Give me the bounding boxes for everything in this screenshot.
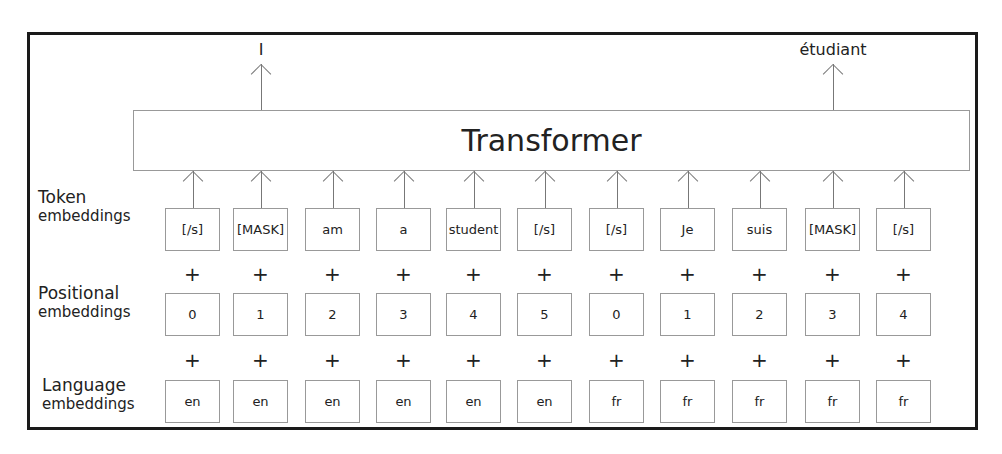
plus-operator: + [607,264,627,284]
language-box: fr [732,380,787,423]
transformer-block: Transformer [133,110,970,171]
plus-operator: + [535,350,555,370]
positional-box: 3 [376,293,431,336]
token-box: [/s] [589,208,644,251]
positional-box-value: 3 [828,307,836,322]
output-arrow [261,64,262,110]
positional-box: 3 [805,293,860,336]
input-arrow [474,171,475,208]
transformer-label: Transformer [461,123,641,158]
plus-operator: + [750,264,770,284]
token-box-value: [MASK] [237,222,284,237]
language-box: en [233,380,288,423]
plus-operator: + [678,264,698,284]
language-box-value: en [184,394,200,409]
input-arrow [688,171,689,208]
positional-box-value: 1 [256,307,264,322]
language-box-value: fr [828,394,838,409]
language-box: en [446,380,501,423]
language-box: en [376,380,431,423]
plus-operator: + [607,350,627,370]
language-box: fr [660,380,715,423]
input-arrow [404,171,405,208]
token-box-value: a [400,222,408,237]
input-arrow [261,171,262,208]
token-box: Je [660,208,715,251]
token-box: [/s] [165,208,220,251]
input-arrow [760,171,761,208]
language-box: en [165,380,220,423]
input-arrow [545,171,546,208]
language-box-value: fr [755,394,765,409]
plus-operator: + [535,264,555,284]
plus-operator: + [823,264,843,284]
plus-operator: + [183,350,203,370]
token-box-value: Je [682,222,694,237]
token-box-value: am [322,222,343,237]
plus-operator: + [464,350,484,370]
positional-box-value: 0 [188,307,196,322]
plus-operator: + [394,350,414,370]
output-token-label: I [259,40,264,59]
language-box-value: en [465,394,481,409]
language-box: fr [589,380,644,423]
output-token-label: étudiant [799,40,866,59]
positional-box: 1 [233,293,288,336]
token-box: am [305,208,360,251]
positional-box: 1 [660,293,715,336]
positional-box: 4 [876,293,931,336]
token-box: [/s] [517,208,572,251]
output-arrow [833,64,834,110]
plus-operator: + [251,264,271,284]
positional-box: 4 [446,293,501,336]
language-box-value: fr [612,394,622,409]
plus-operator: + [251,350,271,370]
token-box: [/s] [876,208,931,251]
positional-box-value: 0 [612,307,620,322]
plus-operator: + [323,264,343,284]
positional-box: 5 [517,293,572,336]
language-box: en [517,380,572,423]
positional-box: 2 [732,293,787,336]
positional-box-value: 2 [328,307,336,322]
token-box: [MASK] [233,208,288,251]
positional-box-value: 1 [683,307,691,322]
language-box-value: fr [683,394,693,409]
positional-box-value: 2 [755,307,763,322]
language-box-value: en [252,394,268,409]
input-arrow [617,171,618,208]
positional-box-value: 5 [540,307,548,322]
token-box-value: [/s] [182,222,203,237]
positional-box-value: 3 [399,307,407,322]
token-box-value: student [449,222,499,237]
token-box-value: [MASK] [809,222,856,237]
language-box: fr [805,380,860,423]
language-box-value: en [536,394,552,409]
plus-operator: + [823,350,843,370]
language-box: fr [876,380,931,423]
token-box: a [376,208,431,251]
input-arrow [193,171,194,208]
input-arrow [833,171,834,208]
language-box-value: en [395,394,411,409]
token-box-value: [/s] [534,222,555,237]
token-embeddings-label: Token embeddings [38,188,131,225]
positional-embeddings-label: Positional embeddings [38,284,131,321]
positional-box: 2 [305,293,360,336]
language-box-value: fr [899,394,909,409]
input-arrow [904,171,905,208]
plus-operator: + [894,350,914,370]
positional-box-value: 4 [469,307,477,322]
positional-box: 0 [165,293,220,336]
plus-operator: + [894,264,914,284]
input-arrow [333,171,334,208]
plus-operator: + [750,350,770,370]
language-box-value: en [324,394,340,409]
token-box-value: [/s] [893,222,914,237]
token-box: suis [732,208,787,251]
plus-operator: + [464,264,484,284]
plus-operator: + [183,264,203,284]
token-box: [MASK] [805,208,860,251]
positional-box-value: 4 [899,307,907,322]
plus-operator: + [678,350,698,370]
